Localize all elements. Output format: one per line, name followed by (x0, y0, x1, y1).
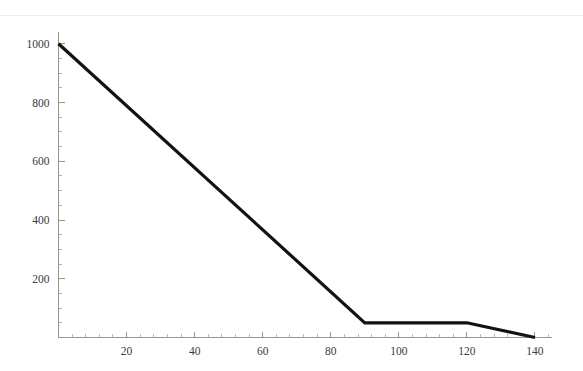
line-chart-canvas: 20406080100120140 2004006008001000 (0, 0, 583, 371)
x-tick-label: 60 (257, 345, 269, 357)
y-tick-label: 1000 (27, 38, 50, 50)
x-tick-label: 20 (121, 345, 133, 357)
x-tick-label: 80 (325, 345, 337, 357)
y-tick-label: 600 (32, 155, 50, 167)
x-tick-label: 140 (526, 345, 544, 357)
x-tick-label: 100 (390, 345, 408, 357)
figure-background (0, 0, 583, 371)
y-tick-label: 200 (32, 273, 50, 285)
y-tick-label: 400 (32, 214, 50, 226)
chart-figure: 20406080100120140 2004006008001000 (0, 0, 583, 371)
x-tick-label: 40 (189, 345, 201, 357)
x-tick-label: 120 (458, 345, 476, 357)
y-tick-label: 800 (32, 97, 50, 109)
